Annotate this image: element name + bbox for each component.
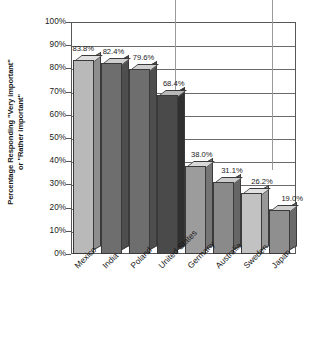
bar-front-face: [129, 69, 150, 254]
bar-india: [101, 63, 122, 254]
bar-value-label: 31.1%: [221, 167, 243, 175]
bar-side-face: [206, 158, 213, 250]
bar-value-label: 26.2%: [251, 178, 273, 186]
bar-front-face: [213, 182, 234, 254]
x-axis-category-labels: MexicoIndiaPolandUnited StatesGermanyAus…: [0, 256, 312, 339]
bar-value-label: 82.4%: [103, 48, 125, 56]
y-axis-tick-mark: [66, 92, 71, 93]
bar-australia: [213, 182, 234, 254]
y-axis-tick-label: 20%: [32, 204, 66, 212]
bar-front-face: [73, 60, 94, 254]
bar-side-face: [178, 87, 185, 250]
y-axis-tick-label: 90%: [32, 41, 66, 49]
y-axis-tick-mark: [66, 115, 71, 116]
y-axis-tick-mark: [66, 68, 71, 69]
y-axis-tick-mark: [66, 231, 71, 232]
y-axis-tick-mark: [66, 138, 71, 139]
y-axis-tick-mark: [66, 184, 71, 185]
bar-side-face: [150, 61, 157, 250]
bar-side-face: [122, 55, 129, 250]
bar-value-label: 19.0%: [281, 195, 303, 203]
bar-poland: [129, 69, 150, 254]
y-axis-tick-label: 100%: [32, 18, 66, 26]
bar-united-states: [157, 95, 178, 254]
y-axis-tick-label: 70%: [32, 88, 66, 96]
bar-value-label: 68.4%: [163, 80, 185, 88]
y-axis-tick-label: 80%: [32, 64, 66, 72]
y-axis-tick-mark: [66, 161, 71, 162]
y-axis-tick-label: 50%: [32, 134, 66, 142]
bar-front-face: [157, 95, 178, 254]
bar-front-face: [269, 210, 290, 254]
bar-value-label: 79.6%: [133, 54, 155, 62]
bar-chart: Percentage Responding "Very important" o…: [0, 0, 312, 339]
bar-side-face: [262, 185, 269, 250]
y-axis-tick-label: 40%: [32, 157, 66, 165]
bar-front-face: [101, 63, 122, 254]
y-axis-tick-mark: [66, 45, 71, 46]
bar-japan: [269, 210, 290, 254]
bar-value-label: 38.0%: [191, 151, 213, 159]
x-axis-label-india: India: [101, 251, 120, 270]
y-axis-tick-mark: [66, 208, 71, 209]
y-axis-tick-mark: [66, 254, 71, 255]
bar-value-label: 83.8%: [73, 45, 95, 53]
y-axis-tick-label: 30%: [32, 180, 66, 188]
y-axis-tick-labels: 0%10%20%30%40%50%60%70%80%90%100%: [30, 22, 66, 254]
bar-side-face: [94, 52, 101, 250]
bars-layer: [71, 22, 296, 254]
y-axis-tick-label: 60%: [32, 111, 66, 119]
y-axis-title: Percentage Responding "Very important" o…: [6, 32, 26, 232]
bar-side-face: [234, 174, 241, 250]
y-axis-tick-label: 10%: [32, 227, 66, 235]
y-axis-tick-mark: [66, 22, 71, 23]
bar-mexico: [73, 60, 94, 254]
